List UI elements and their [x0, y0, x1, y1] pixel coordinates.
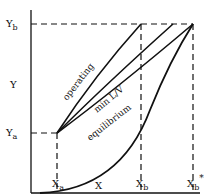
x-axis-label: X: [95, 180, 103, 191]
absorption-diagram: operating min L/V equilibrium Yb Y Ya Xa…: [0, 0, 208, 195]
yb-label: Yb: [5, 18, 18, 32]
xa-label: Xa: [52, 178, 64, 192]
operating-label: operating: [61, 61, 96, 102]
ya-label: Ya: [5, 127, 18, 141]
equilibrium-curve: [40, 24, 193, 193]
xb-star-label: Xb*: [187, 173, 204, 192]
y-axis-label: Y: [9, 79, 17, 90]
xb-label: Xb: [136, 178, 148, 192]
